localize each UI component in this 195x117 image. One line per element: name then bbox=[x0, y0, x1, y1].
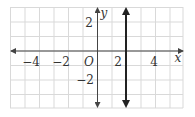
x-tick-label: −2 bbox=[52, 55, 70, 69]
x-tick-label: −4 bbox=[22, 55, 40, 69]
x-axis-label: x bbox=[175, 51, 182, 65]
y-axis-label: y bbox=[100, 6, 108, 20]
y-tick-label: −2 bbox=[76, 73, 94, 87]
y-tick-label: 2 bbox=[85, 16, 93, 30]
x-tick-label: 2 bbox=[114, 55, 122, 69]
coordinate-plane: −4 −2 O 2 4 x 2 −2 y bbox=[0, 0, 195, 117]
x-tick-label: 4 bbox=[150, 55, 158, 69]
origin-label: O bbox=[84, 55, 94, 69]
